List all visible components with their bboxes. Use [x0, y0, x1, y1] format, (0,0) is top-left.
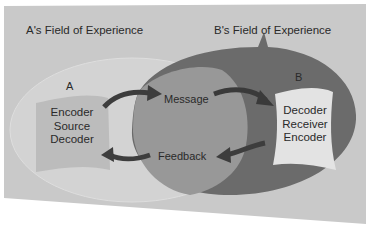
b-role-encoder: Encoder	[276, 131, 334, 145]
participant-a-label: A	[66, 80, 73, 92]
a-roles: Encoder Source Decoder	[40, 106, 104, 147]
a-role-decoder: Decoder	[40, 133, 104, 147]
b-roles: Decoder Receiver Encoder	[276, 104, 334, 145]
feedback-label: Feedback	[158, 150, 206, 162]
a-field-label: A's Field of Experience	[26, 24, 143, 36]
b-field-label: B's Field of Experience	[214, 24, 331, 36]
b-role-decoder: Decoder	[276, 104, 334, 118]
message-label: Message	[164, 93, 209, 105]
a-role-encoder: Encoder	[40, 106, 104, 120]
a-role-source: Source	[40, 120, 104, 134]
b-role-receiver: Receiver	[276, 118, 334, 132]
participant-b-label: B	[295, 71, 302, 83]
